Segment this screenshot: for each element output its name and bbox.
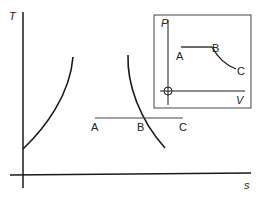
point-b-label: B — [137, 121, 144, 133]
point-c-label: C — [179, 121, 187, 133]
pv-inset: P V A B C — [154, 15, 251, 108]
inset-point-a-label: A — [176, 50, 184, 62]
point-a-label: A — [91, 121, 99, 133]
t-axis-label: T — [9, 10, 17, 22]
inset-point-b-label: B — [212, 42, 219, 54]
inset-point-c-label: C — [237, 65, 245, 77]
p-axis-label: P — [161, 17, 169, 29]
s-axis-label: s — [244, 179, 250, 191]
saturated-liquid-curve — [23, 57, 73, 149]
ts-diagram: T s A B C P V A B C — [0, 0, 268, 200]
s-axis — [10, 173, 251, 175]
